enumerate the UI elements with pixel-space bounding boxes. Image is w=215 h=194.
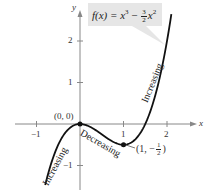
min-point-marker: [121, 142, 126, 147]
y-tick-label-1: 1: [68, 78, 73, 87]
min-point-label: (1, −12): [136, 142, 166, 157]
callout-tail: [132, 26, 165, 45]
x-axis-label: x: [199, 119, 203, 128]
y-axis-arrow-icon: [78, 10, 83, 17]
x-tick-label-neg1: −1: [31, 130, 41, 139]
y-tick-label-neg1: −1: [63, 161, 73, 170]
chart-plot: [0, 0, 215, 194]
function-label: f(x) = x3 − 32x2: [92, 8, 156, 24]
origin-point-marker: [78, 122, 83, 127]
min-point-leader: [126, 145, 135, 148]
origin-point-label: (0, 0): [54, 112, 74, 121]
y-tick-label-2: 2: [68, 36, 73, 45]
x-tick-label-1: 1: [121, 130, 126, 139]
y-axis-label: y: [72, 3, 76, 12]
x-axis-arrow-icon: [190, 122, 197, 127]
x-tick-label-2: 2: [164, 130, 169, 139]
